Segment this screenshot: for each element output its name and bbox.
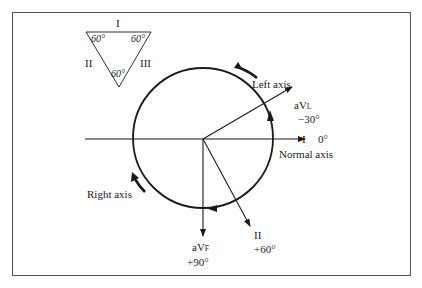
lead-II-label: II bbox=[254, 229, 261, 241]
triangle-angle-top-right: 60° bbox=[131, 33, 145, 45]
lead-I-label: I bbox=[302, 133, 306, 145]
lead-aVL-vector bbox=[203, 87, 292, 139]
triangle-label-II: II bbox=[85, 57, 92, 69]
lead-I-angle: 0° bbox=[318, 133, 328, 145]
normal-axis-label: Normal axis bbox=[279, 148, 333, 160]
lead-aVL-label: aVL bbox=[294, 99, 312, 113]
triangle-angle-top-left: 60° bbox=[91, 33, 105, 45]
figure-frame bbox=[13, 13, 411, 276]
lead-II-vector bbox=[203, 139, 250, 226]
triangle-angle-bottom: 60° bbox=[111, 68, 125, 80]
diagram-graphics bbox=[0, 0, 422, 288]
lead-aVL-subscript: L bbox=[307, 102, 312, 111]
lead-aVF-label: aVF bbox=[192, 241, 209, 255]
left-axis-label: Left axis bbox=[252, 78, 291, 90]
lead-II-angle: +60° bbox=[254, 243, 276, 255]
right-axis-arrow-icon bbox=[135, 179, 145, 192]
lead-aVL-name: aV bbox=[294, 99, 307, 111]
circle-arrow-bottom-icon bbox=[207, 205, 217, 212]
lead-aVF-name: aV bbox=[192, 241, 205, 253]
left-axis-arrowhead-icon bbox=[234, 62, 243, 70]
triangle-label-I: I bbox=[116, 17, 120, 29]
hexaxial-diagram: I II III 60° 60° 60° Left axis Normal ax… bbox=[0, 0, 422, 288]
right-axis-label: Right axis bbox=[87, 188, 132, 200]
lead-aVF-angle: +90° bbox=[187, 256, 209, 268]
lead-aVF-subscript: F bbox=[205, 244, 209, 253]
lead-aVL-angle: −30° bbox=[298, 113, 320, 125]
triangle-label-III: III bbox=[140, 57, 151, 69]
